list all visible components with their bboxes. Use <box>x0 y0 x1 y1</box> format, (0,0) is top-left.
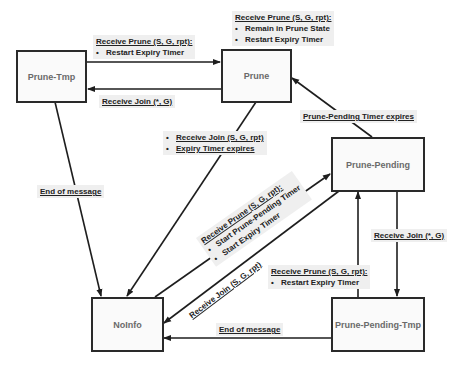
state-label: Prune-Tmp <box>28 72 76 82</box>
label-prune-self: Receive Prune (S, G, rpt): Remain in Pru… <box>232 11 334 46</box>
state-label: Prune-Pending-Tmp <box>335 320 421 330</box>
state-label: NoInfo <box>113 320 142 330</box>
label-prune-to-tmp: Receive Join (*, G) <box>99 95 175 108</box>
label-tmp-to-noinfo: End of message <box>37 185 104 198</box>
label-title: Receive Prune (S, G, rpt): <box>96 36 192 47</box>
label-title: Receive Prune (S, G, rpt): <box>235 12 331 23</box>
label-action: Remain in Prune State <box>235 23 331 34</box>
label-action: Restart Expiry Timer <box>96 47 192 58</box>
label-title: Receive Join (*, G) <box>374 230 444 241</box>
label-action: Restart Expiry Timer <box>235 34 331 45</box>
edge-tmp-to-noinfo <box>55 102 101 296</box>
label-pendingtmp-to-noinfo: End of message <box>216 323 283 336</box>
state-prune: Prune <box>221 49 292 103</box>
label-tmp-to-prune: Receive Prune (S, G, rpt): Restart Expir… <box>93 35 195 59</box>
label-pending-to-prune: Prune-Pending Timer expires <box>300 110 417 123</box>
label-title: Prune-Pending Timer expires <box>303 111 414 122</box>
state-label: Prune <box>244 71 270 81</box>
state-prune-pending-tmp: Prune-Pending-Tmp <box>331 297 425 352</box>
label-title: Receive Prune (S, G, rpt): <box>271 266 367 277</box>
label-title: End of message <box>40 186 101 197</box>
state-prune-pending: Prune-Pending <box>331 137 425 192</box>
label-title: Receive Join (*, G) <box>102 96 172 107</box>
label-pendingtmp-to-pending: Receive Prune (S, G, rpt): Restart Expir… <box>268 265 370 289</box>
state-label: Prune-Pending <box>346 160 410 170</box>
edge-pending-to-prune <box>292 78 372 137</box>
label-pending-to-pendingtmp: Receive Join (*, G) <box>371 229 447 242</box>
label-prune-to-noinfo: Receive Join (S, G, rpt) Expiry Timer ex… <box>163 131 267 155</box>
state-prune-tmp: Prune-Tmp <box>16 50 87 103</box>
label-event: Expiry Timer expires <box>166 143 264 154</box>
label-event: Receive Join (S, G, rpt) <box>166 132 264 143</box>
label-title: End of message <box>219 324 280 335</box>
label-action: Restart Expiry Timer <box>271 277 367 288</box>
state-noinfo: NoInfo <box>91 297 164 352</box>
